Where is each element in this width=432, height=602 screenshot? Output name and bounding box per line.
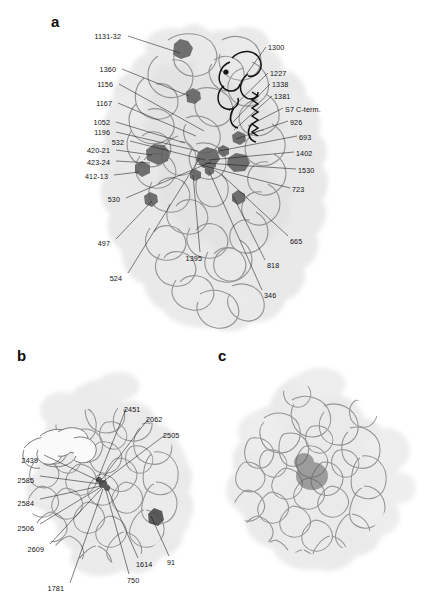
label-420-21: 420-21: [87, 147, 110, 154]
label-1131-32: 1131-32: [94, 33, 121, 40]
panel-b-structure: [0, 340, 216, 602]
label-2609: 2609: [28, 546, 44, 553]
panel-c-structure: [200, 340, 432, 602]
label-423-24: 423-24: [87, 159, 110, 166]
label-497: 497: [98, 240, 110, 247]
label-91: 91: [167, 559, 175, 566]
label-693: 693: [299, 134, 311, 141]
label-1300: 1300: [268, 44, 284, 51]
label-2451: 2451: [124, 406, 140, 413]
label-818: 818: [267, 262, 279, 269]
label-2062: 2062: [146, 416, 162, 423]
label-1781: 1781: [48, 585, 64, 592]
surface-envelope-a: [98, 24, 328, 331]
panel-b: b: [0, 340, 216, 602]
label-1156: 1156: [97, 81, 113, 88]
label-723: 723: [292, 186, 304, 193]
label-412-13: 412-13: [85, 173, 108, 180]
label-750: 750: [127, 577, 139, 584]
label-532: 532: [112, 139, 124, 146]
label-2439: 2439: [22, 457, 38, 464]
panel-c: c: [200, 340, 432, 602]
panel-a: a: [0, 0, 432, 340]
label-1530: 1530: [298, 167, 314, 174]
label-1381: 1381: [274, 93, 290, 100]
label-2506: 2506: [18, 525, 34, 532]
s7-cterm-terminus: [223, 69, 228, 74]
label-1338: 1338: [272, 81, 288, 88]
label-524: 524: [110, 275, 122, 282]
label-1402: 1402: [296, 150, 312, 157]
label-2585: 2585: [18, 477, 34, 484]
label-530: 530: [108, 196, 120, 203]
figure-root: a: [0, 0, 432, 602]
panel-a-structure: [0, 0, 432, 340]
label-2584: 2584: [18, 500, 34, 507]
label-s7-cterm: S7 C-term.: [285, 106, 321, 113]
label-665: 665: [290, 238, 302, 245]
label-1395: 1395: [186, 255, 202, 262]
label-1167: 1167: [96, 100, 112, 107]
label-1614: 1614: [136, 561, 152, 568]
label-1052: 1052: [94, 119, 110, 126]
label-1227: 1227: [270, 70, 286, 77]
label-346: 346: [264, 292, 276, 299]
label-926: 926: [290, 119, 302, 126]
label-1196: 1196: [94, 129, 110, 136]
label-1360: 1360: [100, 66, 116, 73]
surface-envelope-b: [26, 372, 194, 576]
label-2505: 2505: [163, 432, 179, 439]
